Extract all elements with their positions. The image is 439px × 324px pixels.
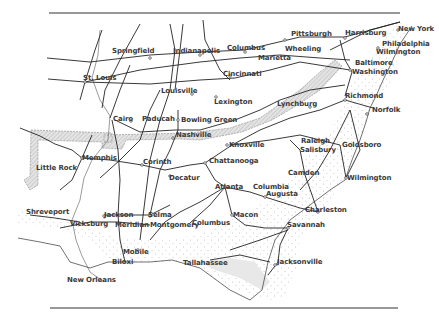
city-label: Augusta (266, 190, 298, 198)
city-label: Baltimore (355, 59, 393, 67)
city-label: Bowling Green (181, 116, 237, 124)
city-label: St. Louis (83, 74, 116, 82)
city-label: Richmond (345, 92, 383, 100)
city-label: Savannah (287, 221, 325, 229)
city-label: Lynchburg (277, 100, 317, 108)
city-label: Springfield (112, 47, 154, 55)
city-label: Vicksburg (70, 220, 108, 228)
city-label: Charleston (305, 206, 347, 214)
city-label: Lexington (214, 98, 252, 106)
city-label: Harrisburg (345, 29, 387, 37)
city-label: Wheeling (285, 45, 321, 53)
city-label: Wilmington (376, 48, 420, 56)
city-label: Paducah (142, 115, 175, 123)
city-label: Washington (352, 68, 398, 76)
city-label: Atlanta (215, 183, 243, 191)
city-label: Wilmington (347, 174, 391, 182)
city-label: Philadelphia (382, 40, 430, 48)
city-label: Chattanooga (209, 157, 259, 165)
city-label: Goldsboro (342, 141, 381, 149)
city-label: Decatur (169, 174, 200, 182)
city-label: New York (398, 25, 434, 33)
city-label: Louisville (161, 87, 197, 95)
city-label: Jacksonville (277, 258, 322, 266)
city-label: Pittsburgh (291, 30, 332, 38)
city-label: Indianapolis (173, 47, 220, 55)
city-label: Marietta (258, 54, 291, 62)
city-label: Nashville (176, 131, 211, 139)
city-label: Jackson (104, 211, 133, 219)
city-label: Cairo (113, 115, 133, 123)
city-label: Shreveport (26, 208, 69, 216)
city-label: Macon (233, 211, 258, 219)
city-label: New Orleans (67, 276, 116, 284)
city-label: Columbus (192, 219, 230, 227)
city-label: Salisbury (300, 146, 336, 154)
city-label: Mobile (123, 248, 149, 256)
city-label: Corinth (143, 158, 171, 166)
city-label: Memphis (82, 154, 117, 162)
city-label: Tallahassee (183, 259, 228, 267)
city-label: Raleigh (301, 137, 330, 145)
city-label: Norfolk (372, 106, 400, 114)
city-label: Biloxi (112, 258, 133, 266)
city-label: Meridian (115, 221, 149, 229)
city-label: Cincinnati (223, 70, 262, 78)
city-label: Little Rock (36, 164, 77, 172)
city-label: Camden (288, 169, 319, 177)
city-label: Columbus (227, 44, 265, 52)
city-label: Knoxville (229, 141, 264, 149)
city-label: Selma (148, 211, 172, 219)
